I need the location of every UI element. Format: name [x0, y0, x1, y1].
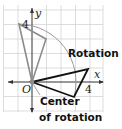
y-axis-down-arrow-icon	[30, 108, 34, 113]
y-tick-4-label: 4	[22, 18, 29, 31]
origin-label: O	[22, 83, 31, 96]
x-tick-4-label: 4	[85, 83, 92, 96]
y-axis-label: y	[34, 7, 42, 20]
rotation-diagram: y x O 4 4 Rotation Center of rotation	[0, 0, 122, 129]
x-axis-left-arrow-icon	[8, 80, 13, 84]
x-axis-label: x	[94, 68, 101, 81]
y-axis-up-arrow-icon	[30, 8, 34, 13]
image-triangle	[32, 69, 88, 97]
center-pointer-line	[33, 84, 40, 95]
rotation-label: Rotation	[68, 47, 119, 59]
center-label-line2: of rotation	[39, 111, 102, 123]
center-label-line1: Center	[40, 95, 80, 107]
